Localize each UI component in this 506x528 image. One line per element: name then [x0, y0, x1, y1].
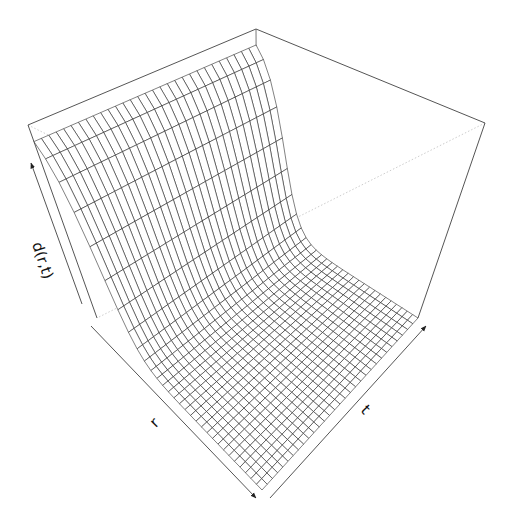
surface-plot-canvas: r t d(r,t) — [0, 0, 506, 528]
x-axis-label: r — [146, 413, 164, 431]
box-edge — [256, 29, 485, 123]
z-axis-label: d(r,t) — [28, 240, 57, 282]
y-axis-label: t — [357, 401, 374, 418]
surface-plot: r t d(r,t) — [0, 0, 506, 528]
box-edge — [418, 123, 485, 318]
surface-mesh — [34, 45, 418, 490]
